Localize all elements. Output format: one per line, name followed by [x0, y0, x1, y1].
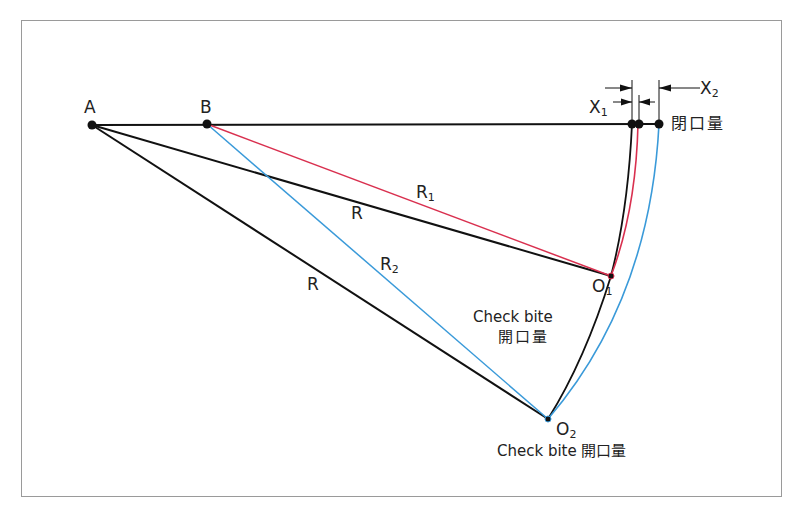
arc-red	[611, 124, 638, 276]
point-closing-2	[635, 120, 644, 129]
label-r1-main: R	[416, 182, 428, 202]
point-o2	[545, 416, 551, 422]
label-check-bite-mid: Check bite	[473, 310, 553, 325]
geometry-drawing	[0, 0, 803, 521]
arrow-icon	[659, 85, 671, 92]
label-point-o2: O2	[556, 421, 576, 440]
label-o2-main: O	[556, 419, 569, 439]
label-check-bite-bottom: Check bite 開口量	[497, 444, 626, 459]
label-r2-sub: 2	[392, 263, 399, 276]
label-x1-main: X	[589, 97, 601, 117]
label-closing-amount: 閉口量	[671, 116, 725, 132]
label-r-lower: R	[307, 276, 319, 293]
label-x2-sub: 2	[712, 87, 719, 100]
label-x1-sub: 1	[601, 106, 608, 119]
baseline	[92, 124, 658, 125]
point-b	[203, 120, 212, 129]
radius-a-o2	[92, 125, 548, 419]
label-o1-sub: 1	[605, 285, 612, 298]
label-point-b: B	[200, 99, 212, 116]
label-x1: X1	[589, 99, 608, 118]
arrow-icon	[621, 99, 632, 106]
arc-blue	[548, 124, 659, 419]
radius-b-o1	[207, 124, 611, 276]
radius-a-o1	[92, 125, 611, 276]
label-point-o1: O1	[592, 278, 612, 297]
label-r1: R1	[416, 184, 435, 203]
arrow-icon	[639, 99, 650, 106]
radius-b-o2	[207, 124, 548, 419]
label-r-upper: R	[351, 205, 363, 222]
point-closing-3	[655, 120, 664, 129]
label-x2: X2	[700, 80, 719, 99]
label-o1-main: O	[592, 276, 605, 296]
label-o2-sub: 2	[569, 428, 576, 441]
label-opening-amount-mid: 開口量	[498, 330, 549, 345]
label-r2-main: R	[380, 254, 392, 274]
arc-black	[548, 124, 632, 419]
label-r2: R2	[380, 256, 399, 275]
arrow-icon	[620, 85, 632, 92]
label-r1-sub: 1	[428, 191, 435, 204]
label-x2-main: X	[700, 78, 712, 98]
label-point-a: A	[84, 99, 96, 116]
point-a	[88, 121, 97, 130]
